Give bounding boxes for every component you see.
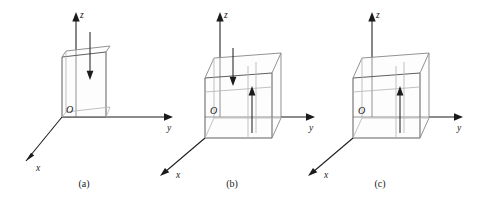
panel-a: z y x O	[26, 10, 173, 173]
panel-b-box	[205, 53, 281, 138]
panel-b-y-label: y	[308, 123, 314, 133]
panel-a-origin-label: O	[66, 104, 73, 115]
diagram-canvas: z y x O	[0, 0, 487, 203]
panel-a-x-axis	[26, 117, 62, 161]
panel-b-x-axis	[160, 138, 205, 176]
caption-c: (c)	[360, 178, 400, 189]
panel-a-y-label: y	[166, 123, 172, 133]
panel-a-z-label: z	[79, 10, 84, 20]
panel-c-origin-label: O	[358, 105, 365, 116]
panel-b-origin-label: O	[210, 105, 217, 116]
panel-b: z y x O	[160, 10, 315, 180]
panel-b-z-label: z	[223, 10, 228, 20]
panel-c-x-axis	[308, 138, 353, 176]
panel-c-z-label: z	[375, 10, 380, 20]
figure-root: z y x O	[0, 0, 487, 203]
panel-c-box	[353, 53, 429, 138]
caption-a: (a)	[64, 178, 104, 189]
panel-a-x-label: x	[35, 163, 41, 173]
caption-b: (b)	[212, 178, 252, 189]
panel-b-x-label: x	[175, 170, 181, 180]
panel-c: z y x O	[308, 10, 463, 180]
panel-c-x-label: x	[323, 170, 329, 180]
panel-c-y-label: y	[456, 123, 462, 133]
